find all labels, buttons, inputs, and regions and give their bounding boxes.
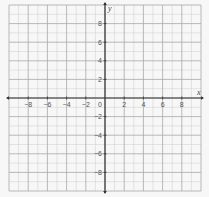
x-axis-label: x — [196, 88, 201, 97]
y-tick-label: −8 — [94, 169, 102, 176]
origin-label: 0 — [98, 101, 102, 108]
y-tick-label: 4 — [98, 57, 102, 64]
x-tick-label: −8 — [24, 101, 32, 108]
y-tick-label: −4 — [94, 132, 102, 139]
x-tick-label: 8 — [180, 101, 184, 108]
x-tick-label: −4 — [63, 101, 71, 108]
x-tick-label: −6 — [43, 101, 51, 108]
x-tick-label: 2 — [122, 101, 126, 108]
x-tick-label: 4 — [141, 101, 145, 108]
y-tick-label: −2 — [94, 113, 102, 120]
coordinate-plane: −8−6−4−224688642−2−4−6−8 x y 0 — [0, 0, 209, 197]
y-tick-label: 8 — [98, 20, 102, 27]
y-tick-label: −6 — [94, 150, 102, 157]
x-tick-label: −2 — [82, 101, 90, 108]
x-tick-label: 6 — [161, 101, 165, 108]
y-axis-label: y — [107, 4, 112, 13]
y-tick-label: 6 — [98, 39, 102, 46]
y-tick-label: 2 — [98, 76, 102, 83]
